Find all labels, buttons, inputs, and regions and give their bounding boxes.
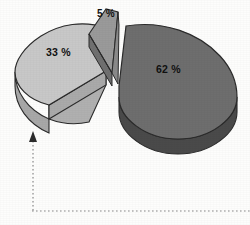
pie-slice-label-33: 33 % — [46, 47, 71, 58]
pie-chart-graphic — [0, 0, 250, 225]
pie-slice-label-5: 5 % — [97, 9, 115, 19]
up-arrow-icon — [29, 131, 37, 142]
pie-slice-62 — [119, 25, 237, 154]
pie-slice-label-62: 62 % — [156, 64, 181, 75]
pie-chart-figure: 33 % 5 % 62 % — [0, 0, 250, 225]
pie-slice-62-top — [119, 25, 237, 139]
